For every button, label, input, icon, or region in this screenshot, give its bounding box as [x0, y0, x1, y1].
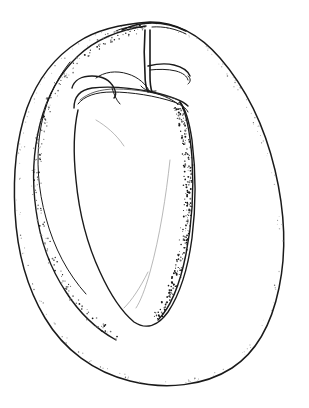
stipple-dot: [235, 80, 236, 81]
stipple-dot: [188, 139, 190, 141]
stipple-dot: [187, 217, 188, 218]
stipple-dot: [172, 287, 174, 289]
stipple-dot: [39, 154, 41, 156]
stipple-dot: [37, 184, 38, 185]
stipple-dot: [48, 262, 49, 263]
stipple-dot: [186, 128, 187, 129]
stipple-dot: [189, 180, 190, 181]
stipple-dot: [99, 46, 100, 47]
stipple-dot: [282, 240, 283, 241]
stipple-dot: [113, 31, 115, 33]
stipple-dot: [111, 37, 113, 39]
stipple-dot: [89, 39, 90, 40]
stipple-dot: [20, 137, 21, 138]
stipple-dot: [184, 142, 185, 143]
stipple-dot: [189, 380, 190, 381]
stipple-dot: [102, 327, 103, 328]
stipple-dot: [31, 186, 32, 187]
stipple-dot: [180, 109, 182, 111]
stipple-dot: [262, 325, 263, 326]
stipple-dot: [184, 204, 185, 205]
stipple-dot: [186, 244, 187, 245]
stipple-dot: [54, 270, 56, 272]
stipple-dot: [50, 95, 51, 96]
stipple-dot: [237, 89, 238, 90]
stipple-dot: [66, 337, 67, 338]
stipple-dot: [62, 336, 63, 337]
stipple-dot: [64, 76, 66, 78]
stipple-dot: [174, 110, 175, 111]
stipple-dot: [44, 242, 46, 244]
stipple-dot: [183, 176, 184, 177]
stipple-dot: [19, 143, 20, 144]
stipple-dot: [165, 381, 166, 382]
stipple-dot: [187, 223, 188, 224]
stipple-dot: [165, 303, 167, 305]
stipple-dot: [178, 258, 180, 260]
stipple-dot: [206, 46, 207, 47]
stipple-dot: [50, 105, 51, 106]
stipple-dot: [157, 312, 159, 314]
stipple-dot: [56, 261, 58, 263]
stipple-dot: [97, 39, 99, 41]
stipple-dot: [182, 229, 184, 231]
stipple-dot: [34, 102, 35, 103]
stipple-dot: [78, 43, 79, 44]
stipple-dot: [169, 294, 171, 296]
stipple-dot: [81, 305, 83, 307]
stipple-dot: [227, 75, 229, 77]
stipple-dot: [64, 73, 65, 74]
stipple-dot: [169, 296, 171, 298]
stipple-dot: [184, 133, 185, 134]
stipple-dot: [188, 170, 189, 171]
stipple-dot: [70, 286, 71, 287]
stipple-dot: [110, 41, 112, 43]
stipple-dot: [211, 54, 212, 55]
stipple-dot: [43, 302, 44, 303]
stipple-dot: [267, 153, 268, 154]
stipple-dot: [182, 115, 184, 117]
stipple-dot: [185, 120, 186, 121]
stipple-dot: [179, 251, 180, 252]
stipple-dot: [184, 160, 186, 162]
stipple-dot: [247, 348, 248, 349]
stipple-dot: [36, 134, 37, 135]
stipple-dot: [187, 221, 189, 223]
stipple-dot: [134, 28, 135, 29]
stipple-dot: [34, 160, 35, 161]
stipple-dot: [89, 55, 90, 56]
stipple-dot: [128, 34, 129, 35]
stipple-dot: [182, 258, 183, 259]
stipple-dot: [37, 178, 39, 180]
stipple-dot: [35, 189, 37, 191]
stipple-dot: [79, 58, 80, 59]
stipple-dot: [271, 172, 272, 173]
stipple-dot: [138, 25, 139, 26]
stipple-dot: [72, 49, 73, 50]
stipple-dot: [170, 289, 172, 291]
stipple-dot: [110, 331, 112, 333]
stipple-dot: [187, 203, 188, 204]
stipple-dot: [33, 148, 34, 149]
stipple-dot: [54, 322, 55, 323]
stipple-dot: [53, 259, 55, 261]
stipple-dot: [46, 103, 47, 104]
stipple-dot: [100, 366, 101, 367]
stipple-dot: [186, 242, 188, 244]
stipple-dot: [43, 115, 45, 117]
stipple-dot: [171, 292, 172, 293]
stipple-dot: [107, 33, 108, 34]
stipple-dot: [61, 58, 62, 59]
stipple-dot: [177, 271, 178, 272]
stipple-dot: [180, 260, 182, 262]
stipple-dot: [62, 77, 63, 78]
stipple-dot: [187, 181, 189, 183]
stipple-dot: [33, 289, 34, 290]
stipple-dot: [250, 347, 251, 348]
stipple-dot: [176, 260, 178, 262]
stipple-dot: [101, 330, 103, 332]
stipple-dot: [214, 372, 215, 373]
stipple-dot: [90, 360, 91, 361]
stipple-dot: [134, 30, 135, 31]
stipple-dot: [178, 115, 180, 117]
